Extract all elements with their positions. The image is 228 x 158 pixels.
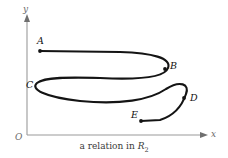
point-label-b: B xyxy=(170,61,177,71)
point-marker-a xyxy=(38,49,42,53)
point-marker-d xyxy=(182,96,186,100)
origin-label: O xyxy=(15,133,22,142)
figure-caption: a relation in R2 xyxy=(0,142,228,153)
point-label-a: A xyxy=(37,36,44,46)
relation-subscript: 2 xyxy=(144,146,148,154)
y-axis-label: y xyxy=(23,5,28,14)
relation-plot-svg xyxy=(0,0,228,158)
x-axis-label: x xyxy=(211,130,216,139)
x-axis-arrowhead xyxy=(200,132,208,138)
point-label-e: E xyxy=(131,110,138,120)
point-label-d: D xyxy=(190,93,198,103)
point-marker-e xyxy=(139,119,143,123)
relation-figure: y x O ABCDE a relation in R2 xyxy=(0,0,228,158)
point-label-c: C xyxy=(26,80,33,90)
relation-curve xyxy=(35,51,187,121)
y-axis-arrowhead xyxy=(24,14,30,22)
caption-text: a relation in xyxy=(79,141,134,151)
point-marker-b xyxy=(163,67,167,71)
